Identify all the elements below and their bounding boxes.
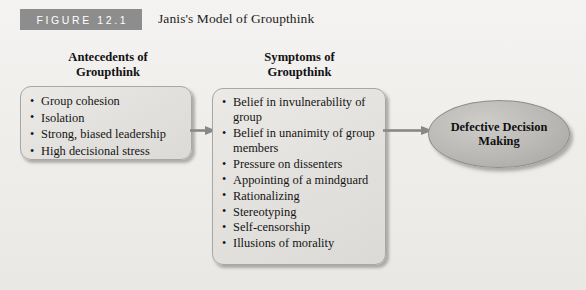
figure-title: Janis's Model of Groupthink bbox=[158, 11, 314, 27]
arrow-symptoms-to-outcome-icon bbox=[383, 126, 433, 135]
list-item: Isolation bbox=[30, 110, 185, 126]
antecedents-list: Group cohesion Isolation Strong, biased … bbox=[21, 87, 191, 159]
list-item: Illusions of morality bbox=[222, 236, 379, 251]
list-item: Pressure on dissenters bbox=[222, 157, 379, 172]
list-item: Self-censorship bbox=[222, 220, 379, 235]
outcome-label: Defective Decision Making bbox=[451, 120, 548, 149]
figure-number-banner: FIGURE 12.1 bbox=[20, 9, 142, 30]
list-item: High decisional stress bbox=[30, 143, 185, 159]
antecedents-heading: Antecedents of Groupthink bbox=[22, 50, 194, 80]
outcome-ellipse: Defective Decision Making bbox=[428, 100, 570, 168]
symptoms-heading: Symptoms of Groupthink bbox=[212, 50, 387, 80]
list-item: Group cohesion bbox=[30, 93, 185, 109]
list-item: Belief in unanimity of group members bbox=[222, 126, 379, 157]
list-item: Stereotyping bbox=[222, 205, 379, 220]
figure-number-label: FIGURE 12.1 bbox=[34, 14, 128, 26]
list-item: Rationalizing bbox=[222, 189, 379, 204]
antecedents-box: Group cohesion Isolation Strong, biased … bbox=[20, 86, 192, 160]
list-item: Belief in invulnerability of group bbox=[222, 95, 379, 126]
symptoms-box: Belief in invulnerability of group Belie… bbox=[212, 88, 386, 265]
symptoms-list: Belief in invulnerability of group Belie… bbox=[213, 89, 385, 251]
list-item: Appointing of a mindguard bbox=[222, 173, 379, 188]
list-item: Strong, biased leadership bbox=[30, 126, 185, 142]
figure-container: FIGURE 12.1 Janis's Model of Groupthink … bbox=[0, 0, 586, 290]
